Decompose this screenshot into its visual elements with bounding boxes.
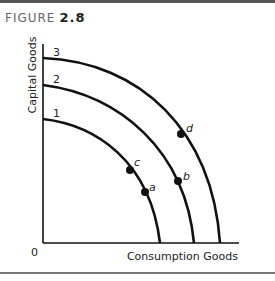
ppf-chart: c a b d 3 2 1 0 Consumption Goods Capita… [0,0,275,281]
point-b [174,177,182,185]
point-c [126,166,134,174]
label-b: b [183,170,190,183]
origin-label: 0 [31,246,38,259]
curve-label-3: 3 [53,46,60,59]
label-c: c [134,156,140,169]
label-a: a [149,181,156,194]
curve-label-1: 1 [53,107,60,120]
curve-2 [43,85,194,243]
bottom-rule [0,272,275,274]
x-axis-label: Consumption Goods [127,250,238,263]
y-axis-label: Capital Goods [26,36,39,113]
label-d: d [186,122,194,135]
curve-3 [43,58,220,243]
curve-label-2: 2 [53,73,60,86]
point-d [177,130,185,138]
point-a [141,188,149,196]
curve-1 [43,119,160,243]
